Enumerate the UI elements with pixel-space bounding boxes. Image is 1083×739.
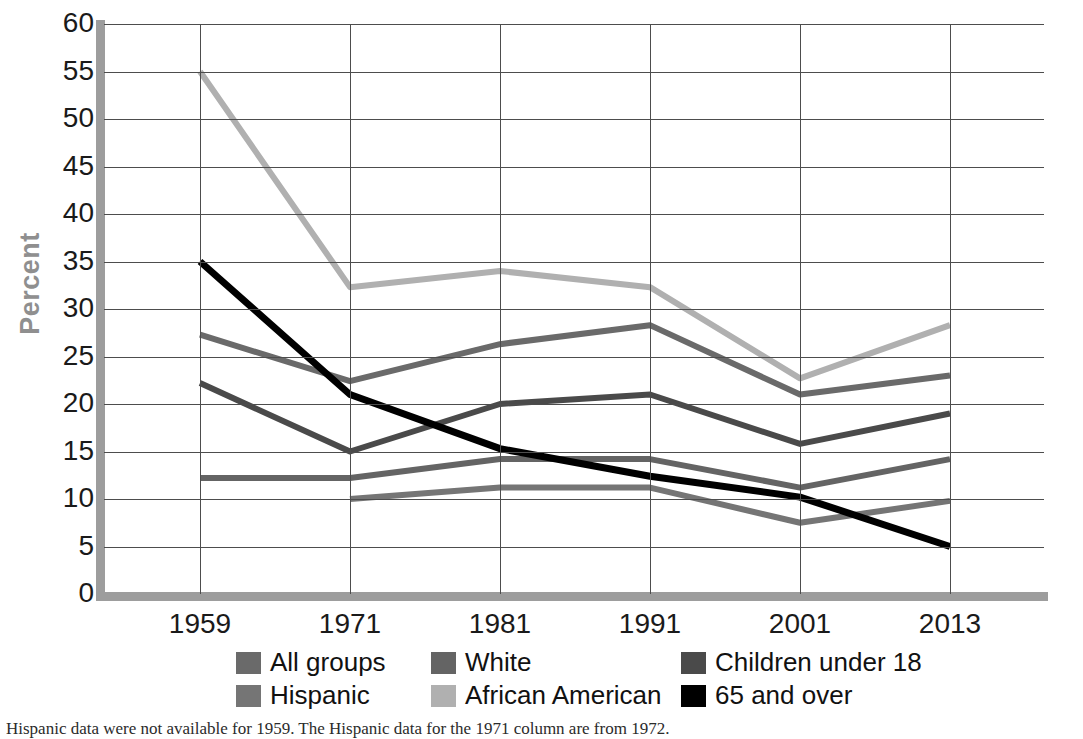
legend-row: HispanicAfrican American65 and over — [236, 679, 936, 712]
y-tick-label: 20 — [38, 389, 94, 417]
gridline-horizontal — [104, 452, 1044, 453]
y-tick-label: 10 — [38, 484, 94, 512]
legend-item[interactable]: 65 and over — [681, 679, 936, 712]
legend-swatch-icon — [681, 685, 706, 707]
y-axis-tick-labels: 605550454035302520151050 — [32, 0, 94, 736]
legend-item-label: White — [465, 647, 531, 678]
y-tick-label: 40 — [38, 199, 94, 227]
legend-item-label: African American — [465, 680, 662, 711]
plot-area — [104, 24, 1044, 594]
y-tick-label: 55 — [38, 57, 94, 85]
legend-item-label: Children under 18 — [715, 647, 922, 678]
gridline-horizontal — [104, 24, 1044, 25]
chart-footnote: Hispanic data were not available for 195… — [6, 719, 1076, 739]
legend-row: All groupsWhiteChildren under 18 — [236, 646, 936, 679]
y-tick-label: 30 — [38, 294, 94, 322]
x-tick-label: 2013 — [890, 608, 1010, 640]
legend-item-label: 65 and over — [715, 680, 852, 711]
legend-item[interactable]: Hispanic — [236, 679, 431, 712]
y-tick-label: 15 — [38, 437, 94, 465]
legend-swatch-icon — [681, 652, 706, 674]
legend-item-label: All groups — [270, 647, 386, 678]
y-tick-label: 5 — [38, 532, 94, 560]
y-tick-label: 25 — [38, 342, 94, 370]
x-tick-label: 1991 — [590, 608, 710, 640]
gridline-horizontal — [104, 72, 1044, 73]
gridline-horizontal — [104, 262, 1044, 263]
gridline-horizontal — [104, 547, 1044, 548]
legend-swatch-icon — [236, 652, 261, 674]
legend-item[interactable]: African American — [431, 679, 681, 712]
legend-item-label: Hispanic — [270, 680, 370, 711]
chart-legend: All groupsWhiteChildren under 18Hispanic… — [236, 646, 936, 712]
gridline-horizontal — [104, 357, 1044, 358]
legend-item[interactable]: Children under 18 — [681, 646, 936, 679]
x-tick-label: 1971 — [290, 608, 410, 640]
y-tick-label: 45 — [38, 152, 94, 180]
gridline-horizontal — [104, 167, 1044, 168]
y-tick-label: 50 — [38, 104, 94, 132]
gridline-horizontal — [104, 119, 1044, 120]
gridline-horizontal — [104, 309, 1044, 310]
legend-item[interactable]: All groups — [236, 646, 431, 679]
gridline-horizontal — [104, 214, 1044, 215]
x-tick-label: 2001 — [740, 608, 860, 640]
y-tick-label: 0 — [38, 579, 94, 607]
gridline-horizontal — [104, 499, 1044, 500]
gridline-horizontal — [104, 404, 1044, 405]
legend-item[interactable]: White — [431, 646, 681, 679]
legend-swatch-icon — [431, 652, 456, 674]
x-tick-label: 1959 — [140, 608, 260, 640]
x-tick-label: 1981 — [440, 608, 560, 640]
legend-swatch-icon — [431, 685, 456, 707]
y-tick-label: 35 — [38, 247, 94, 275]
y-tick-label: 60 — [38, 9, 94, 37]
series-line — [200, 383, 950, 451]
legend-swatch-icon — [236, 685, 261, 707]
